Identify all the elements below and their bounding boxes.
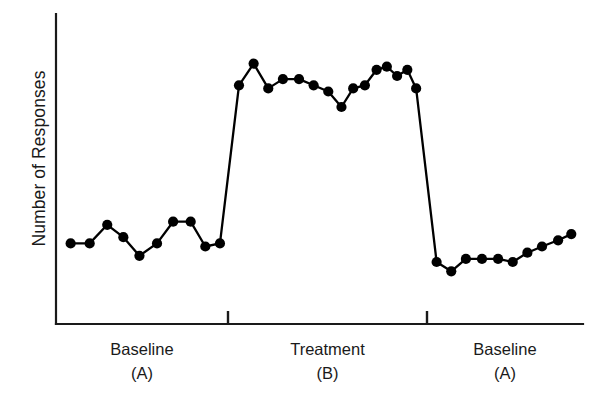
phase-caption-baseline-a1: Baseline (A) [56,338,228,386]
data-point-marker [348,83,358,93]
data-point-marker [336,102,346,112]
data-point-marker [249,59,259,69]
phase-label-name: Baseline [56,338,228,362]
data-point-marker [309,80,319,90]
data-point-marker [360,80,370,90]
data-point-marker [522,248,532,258]
phase-label-code: (A) [56,362,228,386]
data-point-marker [85,238,95,248]
data-point-marker [508,257,518,267]
data-point-marker [566,229,576,239]
data-series-layer [66,59,577,277]
data-point-marker [402,65,412,75]
data-point-marker [477,254,487,264]
data-point-marker [152,238,162,248]
data-point-marker [371,65,381,75]
data-point-marker [553,235,563,245]
data-point-marker [432,257,442,267]
phase-label-name: Baseline [427,338,583,362]
chart-figure: Number of Responses Baseline (A) Treatme… [0,0,599,412]
series-line [71,64,572,272]
data-point-marker [200,241,210,251]
data-point-marker [186,217,196,227]
data-point-marker [118,232,128,242]
data-point-marker [461,254,471,264]
data-point-marker [234,80,244,90]
data-point-marker [278,74,288,84]
data-point-marker [263,83,273,93]
phase-label-code: (B) [228,362,427,386]
phase-caption-treatment-b: Treatment (B) [228,338,427,386]
phase-label-code: (A) [427,362,583,386]
data-point-marker [294,74,304,84]
data-point-marker [215,238,225,248]
data-point-marker [102,220,112,230]
data-point-marker [323,86,333,96]
data-point-marker [382,62,392,72]
data-point-marker [411,83,421,93]
phase-caption-baseline-a2: Baseline (A) [427,338,583,386]
phase-label-name: Treatment [228,338,427,362]
data-point-marker [134,251,144,261]
data-point-marker [66,238,76,248]
data-point-marker [168,217,178,227]
data-point-marker [493,254,503,264]
data-point-marker [446,266,456,276]
data-point-marker [537,241,547,251]
data-point-marker [392,71,402,81]
